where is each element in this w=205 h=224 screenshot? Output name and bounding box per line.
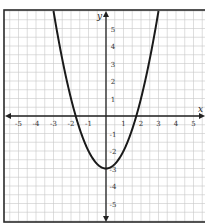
- x-tick-label: 1: [121, 120, 125, 128]
- y-tick-label: -4: [110, 183, 117, 191]
- y-tick-label: -2: [110, 148, 117, 156]
- y-tick-label: 4: [111, 43, 116, 51]
- axes: [5, 11, 205, 222]
- x-tick-label: -3: [50, 120, 57, 128]
- x-axis-left-arrow-icon: [5, 113, 11, 119]
- x-tick-label: -4: [33, 120, 40, 128]
- y-axis-label: y: [96, 11, 103, 21]
- y-tick-label: -5: [110, 201, 117, 209]
- x-tick-label: -5: [15, 120, 22, 128]
- coordinate-plane: -5-4-3-2-11234554321-1-2-3-4-5 x y: [0, 0, 205, 224]
- y-tick-label: 1: [111, 96, 115, 104]
- x-axis-label: x: [198, 104, 203, 114]
- y-tick-label: -1: [110, 131, 117, 139]
- x-tick-label: 4: [174, 120, 179, 128]
- y-tick-label: 2: [111, 78, 115, 86]
- y-tick-label: -3: [110, 166, 117, 174]
- y-tick-label: 3: [111, 61, 115, 69]
- x-tick-label: 5: [191, 120, 195, 128]
- x-tick-label: -2: [68, 120, 75, 128]
- x-tick-label: -1: [85, 120, 92, 128]
- y-axis-up-arrow-icon: [103, 11, 109, 17]
- x-tick-label: 2: [139, 120, 143, 128]
- x-tick-label: 3: [156, 120, 160, 128]
- y-tick-label: 5: [111, 26, 115, 34]
